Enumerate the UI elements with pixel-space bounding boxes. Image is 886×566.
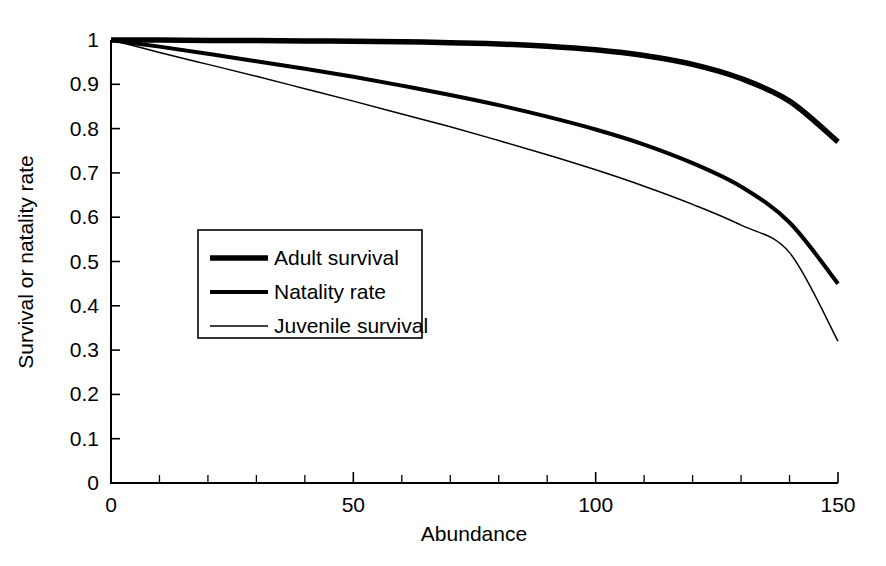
y-tick-label: 0.5 — [70, 250, 99, 273]
y-tick-label: 0 — [87, 471, 99, 494]
x-tick-label: 150 — [820, 493, 855, 516]
x-tick-label: 50 — [342, 493, 365, 516]
y-tick-label: 0.3 — [70, 338, 99, 361]
figure-container: 00.10.20.30.40.50.60.70.80.91 050100150 … — [0, 0, 886, 566]
y-tick-label: 0.8 — [70, 117, 99, 140]
y-axis-title: Survival or natality rate — [14, 155, 37, 369]
x-axis-title: Abundance — [421, 522, 527, 545]
y-tick-label: 0.2 — [70, 382, 99, 405]
chart-legend: Adult survivalNatality rateJuvenile surv… — [198, 230, 428, 338]
y-tick-label: 0.4 — [70, 294, 100, 317]
legend-label: Adult survival — [274, 246, 399, 269]
line-chart: 00.10.20.30.40.50.60.70.80.91 050100150 … — [0, 0, 886, 566]
x-tick-label: 100 — [578, 493, 613, 516]
y-tick-label: 0.6 — [70, 205, 99, 228]
legend-label: Juvenile survival — [274, 314, 428, 337]
y-tick-label: 0.9 — [70, 72, 99, 95]
y-tick-label: 0.1 — [70, 427, 99, 450]
x-tick-label: 0 — [105, 493, 117, 516]
legend-label: Natality rate — [274, 280, 386, 303]
y-tick-label: 1 — [87, 28, 99, 51]
y-tick-label: 0.7 — [70, 161, 99, 184]
